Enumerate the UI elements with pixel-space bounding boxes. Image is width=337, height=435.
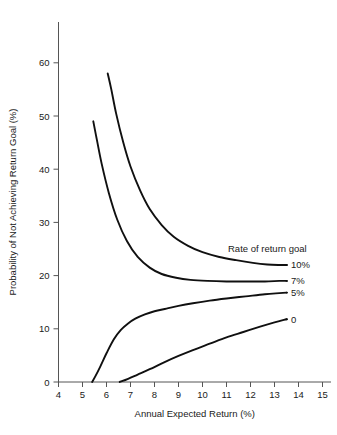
x-tick-label: 8 [152,389,157,400]
y-tick-label: 40 [39,164,50,175]
series-label-5pct: 5% [291,287,305,298]
y-tick-label: 10 [39,323,50,334]
series-curve-0 [120,319,287,382]
axes-group [59,22,332,382]
y-tick-label: 30 [39,217,50,228]
data-curves-group [92,73,287,382]
y-axis-title: Probability of Not Achieving Return Goal… [7,109,18,296]
tick-marks-group [54,63,323,387]
y-tick-label: 20 [39,270,50,281]
x-tick-label: 10 [197,389,208,400]
chart-container: 4567891011121314150102030405060 10%7%5%0… [0,0,337,435]
y-tick-label: 0 [44,377,49,388]
series-label-7pct: 7% [291,275,305,286]
y-tick-label: 50 [39,111,50,122]
x-tick-label: 13 [269,389,280,400]
x-tick-label: 6 [104,389,109,400]
series-curve-5pct [92,293,286,382]
chart-plot-area: 4567891011121314150102030405060 10%7%5%0… [0,0,337,435]
series-curve-7pct [93,121,286,281]
x-tick-label: 11 [222,389,232,400]
x-tick-label: 7 [128,389,133,400]
x-tick-label: 15 [317,389,328,400]
series-labels-group: 10%7%5%0Rate of return goal [228,243,311,325]
x-tick-label: 12 [245,389,256,400]
tick-labels-group: 4567891011121314150102030405060 [39,57,328,400]
x-tick-label: 5 [80,389,85,400]
axis-titles-group: Annual Expected Return (%)Probability of… [7,109,255,419]
y-tick-label: 60 [39,57,50,68]
x-tick-label: 14 [293,389,304,400]
x-tick-label: 9 [176,389,181,400]
series-label-0: 0 [291,314,296,325]
x-axis-title: Annual Expected Return (%) [135,408,255,419]
legend-title: Rate of return goal [228,243,307,254]
series-curve-10pct [108,73,287,265]
series-label-10pct: 10% [291,259,311,270]
x-tick-label: 4 [56,389,61,400]
